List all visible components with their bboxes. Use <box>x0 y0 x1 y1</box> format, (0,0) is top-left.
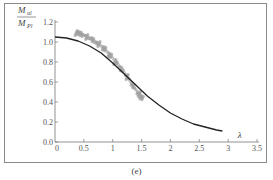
data-point <box>112 58 116 62</box>
x-tick-label: 0.5 <box>79 144 89 153</box>
x-tick-label: 0 <box>55 144 59 153</box>
y-tick-label: 1.0 <box>43 38 53 47</box>
design-curve <box>55 37 222 131</box>
y-tick-label: 0.0 <box>43 138 53 147</box>
data-point <box>98 40 101 43</box>
x-tick-label: 1 <box>111 144 115 153</box>
y-tick-label: 1.2 <box>43 18 53 27</box>
data-point <box>139 95 143 99</box>
data-point <box>101 45 105 49</box>
y-label-denominator: M <box>17 18 26 28</box>
data-point <box>95 41 99 45</box>
y-tick-label: 0.4 <box>43 98 53 107</box>
y-tick-label: 0.2 <box>43 118 53 127</box>
data-point <box>135 90 139 94</box>
y-tick-label: 0.8 <box>43 58 53 67</box>
x-tick-label: 1.5 <box>137 144 147 153</box>
x-tick-label: 3 <box>226 144 230 153</box>
y-label-numerator: M <box>17 5 26 15</box>
y-tick-label: 0.6 <box>43 78 53 87</box>
y-label-denominator-sub: Pl <box>26 23 33 29</box>
y-label-numerator-sub: ul <box>27 10 32 16</box>
x-tick-label: 2.5 <box>194 144 204 153</box>
data-point <box>107 51 111 55</box>
x-tick-label: 3.5 <box>252 144 262 153</box>
figure-caption: (e) <box>0 166 273 176</box>
x-label: λ <box>237 130 242 140</box>
chart: 00.511.522.533.50.00.20.40.60.81.01.2Mul… <box>0 0 273 180</box>
x-tick-label: 2 <box>168 144 172 153</box>
